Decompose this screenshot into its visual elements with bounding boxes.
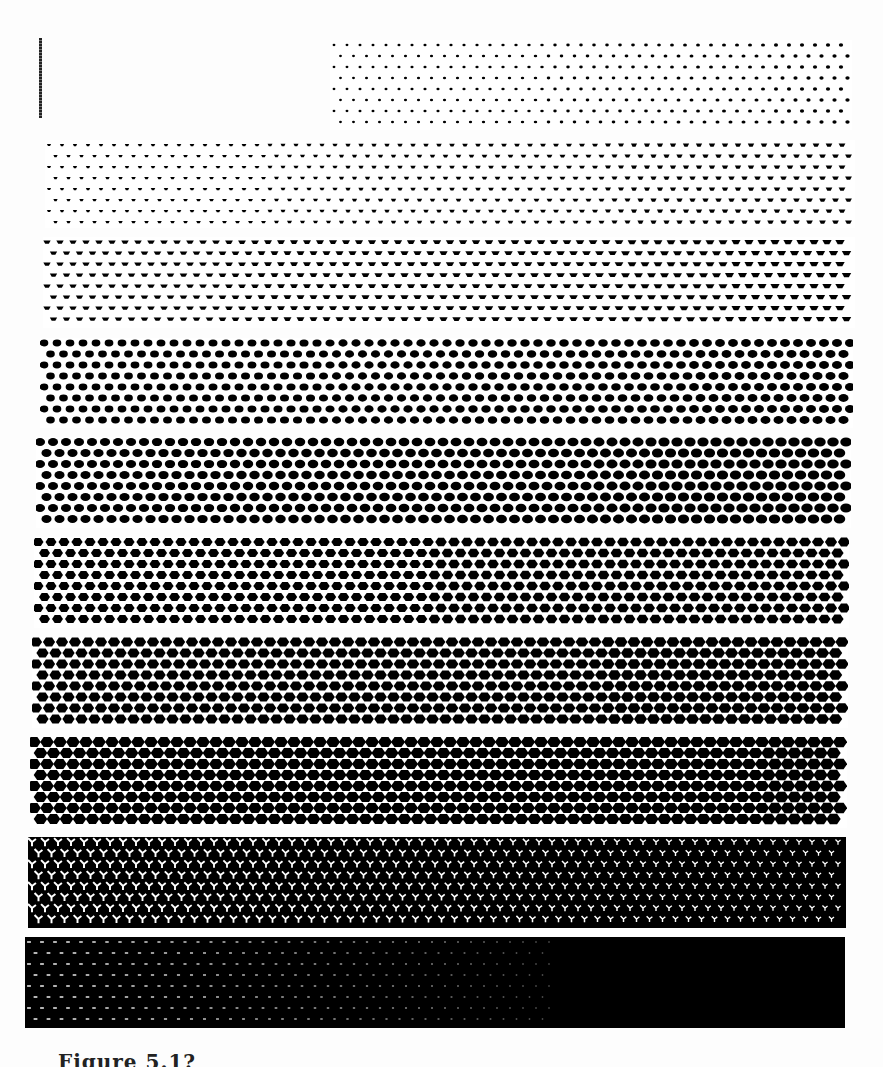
halftone-strip-3 bbox=[40, 338, 853, 428]
halftone-strip-0 bbox=[330, 40, 852, 130]
halftone-strip-5 bbox=[34, 537, 849, 628]
halftone-strip-8 bbox=[28, 837, 846, 928]
halftone-strip-7 bbox=[30, 737, 847, 828]
halftone-strip-4 bbox=[36, 437, 851, 528]
vertical-mark bbox=[39, 38, 42, 118]
halftone-strip-9 bbox=[25, 937, 845, 1028]
halftone-strip-6 bbox=[32, 637, 848, 728]
halftone-strip-1 bbox=[45, 140, 855, 228]
halftone-strip-2 bbox=[43, 237, 855, 328]
scanned-page: Figure 5.1? bbox=[0, 0, 883, 1067]
figure-caption: Figure 5.1? bbox=[58, 1050, 196, 1067]
